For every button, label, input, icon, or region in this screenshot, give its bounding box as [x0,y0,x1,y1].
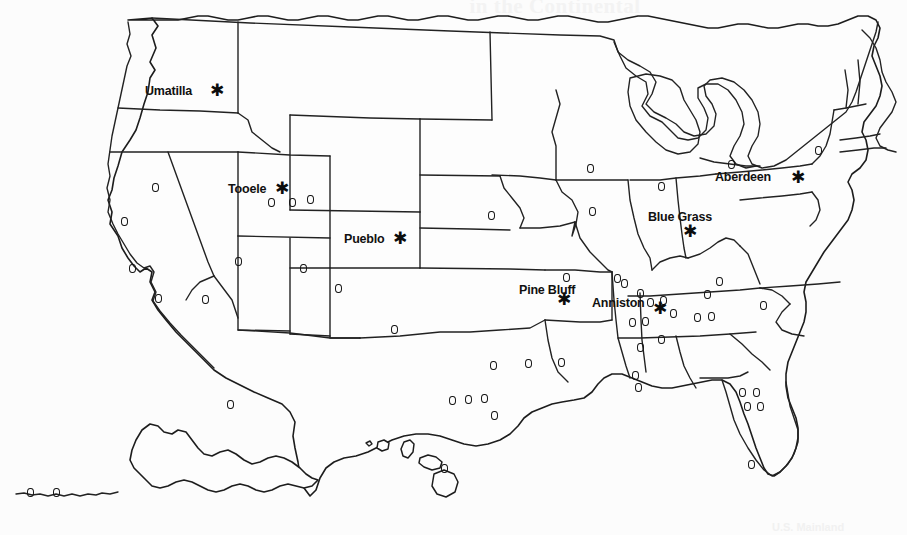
site-circle-marker [621,279,628,288]
site-circle-marker [757,402,764,411]
site-circle-marker [629,318,636,327]
site-circle-marker [753,388,760,397]
site-circle-marker [300,264,307,273]
site-circle-marker [704,290,711,299]
site-circle-marker [642,317,649,326]
site-circle-marker [202,295,209,304]
site-label-aberdeen: Aberdeen [715,170,771,184]
site-circle-marker [589,207,596,216]
site-label-tooele: Tooele [228,182,266,196]
site-label-umatilla: Umatilla [145,84,192,98]
site-star-aberdeen: ✱ [791,169,805,186]
site-circle-marker [760,301,767,310]
site-circle-marker [268,198,275,207]
hawaii-oahu [401,440,414,458]
site-circle-marker [658,182,665,191]
site-circle-marker [491,411,498,420]
site-circle-marker [670,309,677,318]
site-circle-marker [121,217,128,226]
site-circle-marker [27,488,34,497]
site-circle-marker [289,198,296,207]
site-label-anniston: Anniston [592,296,645,310]
site-circle-marker [815,146,822,155]
site-circle-marker [614,274,621,283]
site-circle-marker [488,211,495,220]
site-circle-marker [53,488,60,497]
site-star-pueblo: ✱ [393,230,407,247]
site-circle-marker [748,460,755,469]
site-circle-marker [481,394,488,403]
hawaii-kauai [377,440,389,451]
border-sd-ne [420,175,500,176]
alaska-outline [130,424,318,492]
site-circle-marker [637,343,644,352]
site-circle-marker [716,277,723,286]
site-circle-marker [558,358,565,367]
us-map-svg [0,0,907,535]
site-circle-marker [307,195,314,204]
border-nd-sd [420,119,492,120]
site-circle-marker [335,284,342,293]
site-circle-marker [635,383,642,392]
site-circle-marker [658,335,665,344]
site-circle-marker [563,273,570,282]
site-star-tooele: ✱ [275,180,289,197]
site-star-pine-bluff: ✱ [557,291,571,308]
site-circle-marker [744,402,751,411]
site-circle-marker [449,396,456,405]
site-star-anniston: ✱ [653,300,667,317]
map-container: in the Continental [0,0,907,535]
site-circle-marker [152,183,159,192]
site-circle-marker [694,313,701,322]
site-circle-marker [441,464,448,473]
hawaii-maui-group [419,455,442,470]
site-circle-marker [465,395,472,404]
site-circle-marker [155,294,162,303]
site-circle-marker [525,359,532,368]
site-star-umatilla: ✱ [210,82,224,99]
site-circle-marker [708,312,715,321]
site-circle-marker [632,371,639,380]
site-circle-marker [227,400,234,409]
site-circle-marker [587,164,594,173]
site-label-blue-grass: Blue Grass [648,210,712,224]
site-circle-marker [739,388,746,397]
site-circle-marker [235,257,242,266]
site-circle-marker [391,325,398,334]
site-label-pueblo: Pueblo [344,232,384,246]
site-circle-marker [728,160,735,169]
site-circle-marker [129,264,136,273]
site-circle-marker [490,361,497,370]
site-star-blue-grass: ✱ [683,223,697,240]
hawaii-big-island [432,470,458,497]
